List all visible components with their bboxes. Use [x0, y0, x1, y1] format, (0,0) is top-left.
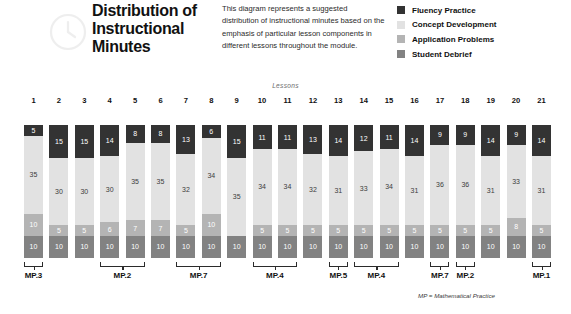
bar-segment: 10: [380, 236, 399, 258]
bar-segment: 10: [176, 236, 195, 258]
mp-brackets: MP.3MP.2MP.7MP.4MP.5MP.4MP.7MP.2MP.1: [24, 262, 551, 292]
bar-segment: 33: [507, 145, 526, 218]
legend-item-label: Fluency Practice: [412, 6, 476, 15]
bar-segment: 8: [151, 125, 170, 143]
legend-item: Fluency Practice: [397, 3, 569, 18]
mp-bracket-label: MP.4: [253, 271, 297, 280]
bar-segment: 5: [405, 225, 424, 236]
lesson-bar[interactable]: 1430610: [100, 125, 119, 258]
lesson-bar[interactable]: 933810: [507, 125, 526, 258]
lesson-number-label: 20: [507, 96, 526, 105]
bar-segment: 34: [278, 149, 297, 224]
legend-item: Application Problems: [397, 32, 569, 47]
lesson-number-label: 13: [329, 96, 348, 105]
lesson-bar[interactable]: 1134510: [278, 125, 297, 258]
bar-segment: 7: [151, 220, 170, 236]
bar-segment: 10: [202, 214, 221, 236]
lesson-bar[interactable]: 1530510: [75, 125, 94, 258]
chart-description: This diagram represents a suggested dist…: [222, 3, 386, 52]
legend-item: Concept Development: [397, 18, 569, 33]
lesson-bar[interactable]: 1233510: [354, 125, 373, 258]
lesson-number-label: 10: [253, 96, 272, 105]
bar-segment: 6: [100, 222, 119, 235]
lesson-number-label: 15: [380, 96, 399, 105]
footnote: MP = Mathematical Practice: [418, 292, 495, 299]
bar-segment: 15: [75, 125, 94, 158]
lesson-bar[interactable]: 5351010: [24, 125, 43, 258]
lesson-bar[interactable]: 835710: [126, 125, 145, 258]
bar-segment: 14: [532, 125, 551, 156]
bar-segment: 30: [100, 156, 119, 223]
bar-segment: 10: [253, 236, 272, 258]
lesson-bar[interactable]: 1431510: [405, 125, 424, 258]
stacked-bar-plot: 1535101021530510315305104143061058357106…: [24, 96, 551, 258]
lesson-bar[interactable]: 936510: [430, 125, 449, 258]
mp-bracket-label: MP.7: [430, 271, 449, 280]
lesson-number-label: 7: [176, 96, 195, 105]
bar-segment: 13: [176, 125, 195, 154]
lesson-bar[interactable]: 1134510: [380, 125, 399, 258]
bracket-tick: [275, 267, 276, 270]
lesson-number-label: 9: [227, 96, 246, 105]
bar-segment: 34: [380, 149, 399, 224]
legend-swatch-icon: [397, 21, 405, 29]
bar-segment: 10: [329, 236, 348, 258]
bar-segment: 5: [49, 225, 68, 236]
bracket-tick: [376, 267, 377, 270]
bar-segment: 5: [329, 225, 348, 236]
mp-bracket-label: MP.7: [176, 271, 220, 280]
bar-segment: 10: [278, 236, 297, 258]
lesson-number-label: 18: [456, 96, 475, 105]
lesson-bar[interactable]: 936510: [456, 125, 475, 258]
bar-segment: 5: [481, 225, 500, 236]
bar-segment: 35: [227, 158, 246, 236]
bar-segment: 13: [303, 125, 322, 154]
bar-segment: 31: [532, 156, 551, 225]
bar-segment: 9: [430, 125, 449, 145]
lesson-bar[interactable]: 835710: [151, 125, 170, 258]
lesson-bar[interactable]: 1431510: [329, 125, 348, 258]
bar-segment: 35: [24, 136, 43, 214]
bar-segment: 7: [126, 220, 145, 236]
lesson-bar[interactable]: 153510: [227, 125, 246, 258]
legend-item-label: Application Problems: [412, 35, 494, 44]
bar-segment: 11: [278, 125, 297, 149]
bracket-tick: [338, 267, 339, 270]
bar-segment: 5: [75, 225, 94, 236]
lesson-number-label: 14: [354, 96, 373, 105]
lesson-bar[interactable]: 1332510: [176, 125, 195, 258]
lesson-bar[interactable]: 6341010: [202, 125, 221, 258]
lesson-bar[interactable]: 1530510: [49, 125, 68, 258]
bar-segment: 30: [49, 158, 68, 225]
legend-item-label: Student Debrief: [412, 50, 472, 59]
bar-segment: 10: [507, 236, 526, 258]
x-axis-title: Lessons: [0, 82, 571, 89]
bar-segment: 32: [303, 154, 322, 225]
bar-segment: 5: [430, 225, 449, 236]
bar-segment: 10: [481, 236, 500, 258]
bar-segment: 5: [354, 225, 373, 236]
bar-segment: 14: [405, 125, 424, 156]
bar-segment: 10: [126, 236, 145, 258]
lesson-bar[interactable]: 1431510: [481, 125, 500, 258]
lesson-number-label: 11: [278, 96, 297, 105]
bar-segment: 5: [303, 225, 322, 236]
legend-item: Student Debrief: [397, 47, 569, 62]
bar-segment: 31: [481, 156, 500, 225]
lesson-bar[interactable]: 1332510: [303, 125, 322, 258]
lesson-bar[interactable]: 1431510: [532, 125, 551, 258]
bar-segment: 5: [24, 125, 43, 136]
bar-segment: 5: [278, 225, 297, 236]
clock-icon: [48, 12, 88, 52]
bar-segment: 15: [49, 125, 68, 158]
bar-segment: 10: [303, 236, 322, 258]
page-title: Distribution of Instructional Minutes: [92, 2, 214, 56]
bar-segment: 10: [456, 236, 475, 258]
lesson-bar[interactable]: 1134510: [253, 125, 272, 258]
bar-segment: 10: [24, 214, 43, 236]
bar-segment: 11: [253, 125, 272, 149]
mp-bracket-label: MP.5: [329, 271, 348, 280]
bar-segment: 10: [405, 236, 424, 258]
legend-swatch-icon: [397, 35, 405, 43]
bar-segment: 5: [456, 225, 475, 236]
